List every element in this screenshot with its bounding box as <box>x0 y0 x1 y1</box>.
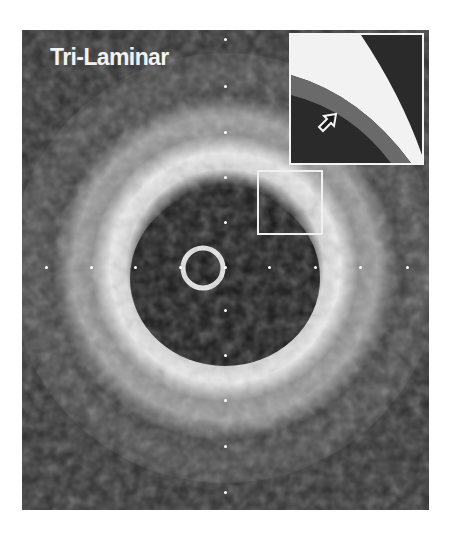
magnified-inset <box>289 33 424 165</box>
marker-dot <box>179 266 182 269</box>
marker-dot <box>224 38 227 41</box>
marker-dot <box>224 221 227 224</box>
ivus-image: Tri-Laminar <box>22 30 429 510</box>
inset-graphic <box>291 35 422 163</box>
marker-dot <box>224 491 227 494</box>
region-of-interest-box <box>257 170 323 235</box>
marker-dot <box>224 309 227 312</box>
marker-dot <box>406 266 409 269</box>
marker-dot <box>224 354 227 357</box>
marker-dot <box>45 266 48 269</box>
marker-dot <box>224 399 227 402</box>
marker-dot <box>224 176 227 179</box>
marker-dot <box>268 266 271 269</box>
marker-dot <box>359 266 362 269</box>
figure-label: Tri-Laminar <box>50 44 169 71</box>
marker-dot <box>314 266 317 269</box>
marker-dot <box>224 266 227 269</box>
marker-dot <box>90 266 93 269</box>
marker-dot <box>224 131 227 134</box>
marker-dot <box>224 445 227 448</box>
marker-dot <box>224 85 227 88</box>
marker-dot <box>134 266 137 269</box>
